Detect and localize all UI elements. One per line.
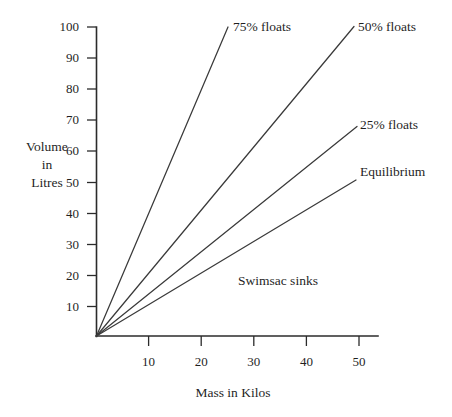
- chart-figure: 100 90 80 70 60 50 40 30 20 10 10 20 30 …: [0, 0, 452, 417]
- series-line-equilibrium: [97, 180, 357, 336]
- series-label-50-percent-floats: 50% floats: [358, 20, 416, 34]
- y-tick-label-40: 40: [45, 207, 79, 220]
- y-axis-title-line-1: Volume: [4, 138, 90, 156]
- series-line-75-percent-floats: [97, 27, 229, 336]
- y-tick-label-20: 20: [45, 269, 79, 282]
- y-axis-title-line-3: Litres: [4, 174, 90, 192]
- x-tick-label-50: 50: [342, 355, 376, 368]
- y-tick-label-80: 80: [45, 82, 79, 95]
- y-axis-title-line-2: in: [4, 156, 90, 174]
- y-tick-label-30: 30: [45, 238, 79, 251]
- series-label-75-percent-floats: 75% floats: [233, 20, 291, 34]
- y-tick-label-100: 100: [45, 20, 79, 33]
- x-tick-label-40: 40: [289, 355, 323, 368]
- y-tick-label-90: 90: [45, 51, 79, 64]
- region-label-swimsac-sinks: Swimsac sinks: [238, 274, 318, 288]
- series-label-equilibrium: Equilibrium: [360, 165, 425, 179]
- x-axis-title: Mass in Kilos: [153, 386, 313, 400]
- x-tick-label-30: 30: [237, 355, 271, 368]
- x-tick-label-20: 20: [184, 355, 218, 368]
- y-axis-title: Volume in Litres: [4, 138, 90, 191]
- y-tick-label-10: 10: [45, 300, 79, 313]
- x-tick-label-10: 10: [132, 355, 166, 368]
- series-label-25-percent-floats: 25% floats: [360, 118, 418, 132]
- series-line-25-percent-floats: [97, 127, 358, 337]
- y-tick-label-70: 70: [45, 113, 79, 126]
- series-line-50-percent-floats: [97, 27, 355, 337]
